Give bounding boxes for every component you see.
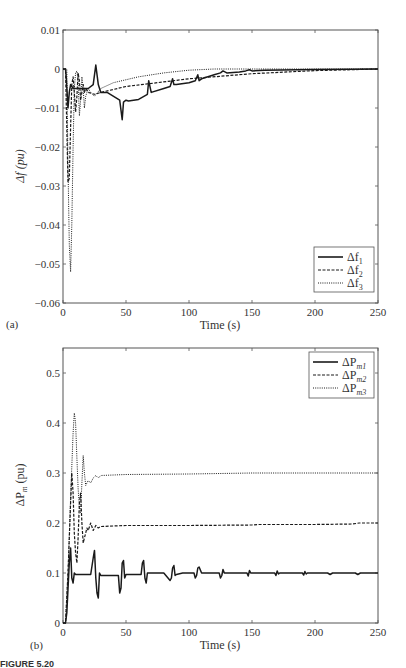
panel-b-xlabel: Time (s) <box>200 638 241 652</box>
y-tick-label: 0 <box>55 63 61 75</box>
x-tick-label: 100 <box>181 626 198 638</box>
y-tick-label: −0.06 <box>35 297 61 309</box>
y-tick-label: 0.4 <box>46 417 60 429</box>
panel-b-ylabel: ΔPm (pu) <box>13 463 29 506</box>
x-tick-label: 200 <box>307 306 324 318</box>
series-line-dotted <box>63 413 378 623</box>
x-tick-label: 0 <box>60 306 66 318</box>
x-tick-label: 250 <box>370 626 387 638</box>
panel-a-legend: Δf1 Δf2 Δf3 <box>314 247 374 292</box>
series-line-dashed <box>63 69 378 182</box>
panel-b-label: (b) <box>30 639 43 652</box>
y-tick-label: −0.01 <box>35 102 60 114</box>
x-tick-label: 150 <box>244 306 261 318</box>
x-tick-label: 200 <box>307 626 324 638</box>
y-tick-label: 0.5 <box>46 367 60 379</box>
series-line-solid <box>63 65 378 120</box>
y-tick-label: 0.01 <box>41 24 60 36</box>
y-tick-label: 0 <box>55 617 61 629</box>
x-tick-label: 50 <box>121 306 133 318</box>
panel-a-series <box>63 65 378 272</box>
series-line-dashed <box>63 473 378 623</box>
x-tick-label: 150 <box>244 626 261 638</box>
y-tick-label: −0.04 <box>35 219 61 231</box>
y-tick-label: −0.05 <box>35 258 61 270</box>
y-tick-label: −0.02 <box>35 141 60 153</box>
figure-caption: FIGURE 5.20 <box>0 659 54 668</box>
panel-a-chart: 0501001502002500.010−0.01−0.02−0.03−0.04… <box>6 24 387 332</box>
series-line-dotted <box>63 69 378 272</box>
panel-b-legend: ΔPm1 ΔPm2 ΔPm3 <box>309 352 374 398</box>
x-tick-label: 100 <box>181 306 198 318</box>
x-tick-label: 250 <box>370 306 387 318</box>
panel-a-label: (a) <box>6 318 19 331</box>
x-tick-label: 0 <box>60 626 66 638</box>
panel-b-chart: 05010015020025000.10.20.30.40.5 Time (s)… <box>13 348 387 652</box>
y-tick-label: −0.03 <box>35 180 61 192</box>
x-tick-label: 50 <box>121 626 133 638</box>
y-tick-label: 0.1 <box>46 567 60 579</box>
panel-a-ylabel: Δf (pu) <box>13 149 27 183</box>
figure: 0501001502002500.010−0.01−0.02−0.03−0.04… <box>0 0 406 668</box>
y-tick-label: 0.2 <box>46 517 60 529</box>
panel-a-xlabel: Time (s) <box>200 318 241 332</box>
series-line-solid <box>63 548 378 623</box>
y-tick-label: 0.3 <box>46 467 60 479</box>
panel-b-series <box>63 413 378 623</box>
